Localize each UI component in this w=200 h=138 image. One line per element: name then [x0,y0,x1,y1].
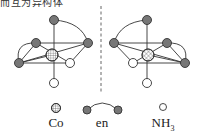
nh3-ligand [50,79,59,88]
nh3-ligand [66,59,75,68]
legend-co-label: Co [36,115,76,131]
en-donor-atom [50,16,59,25]
isomer-right [110,16,190,88]
en-donor-atom [32,39,41,48]
legend [52,103,167,114]
legend-en-label: en [82,115,122,131]
legend-nh3-icon [160,104,167,111]
nh3-ligand [143,79,152,88]
en-donor-atom [181,59,190,68]
nh3-subscript: 3 [170,124,174,133]
nh3-ligand [129,59,138,68]
nh3-text: NH [152,115,171,130]
legend-en-dot-icon [83,106,91,114]
en-donor-atom [15,59,24,68]
legend-en-dot-icon [114,106,122,114]
en-donor-atom [163,39,172,48]
en-donor-atom [110,39,119,48]
isomer-left [15,16,93,88]
en-donor-atom [143,16,152,25]
legend-en-arc-icon [87,103,118,110]
en-donor-atom [84,39,93,48]
legend-nh3-label: NH3 [143,115,183,133]
